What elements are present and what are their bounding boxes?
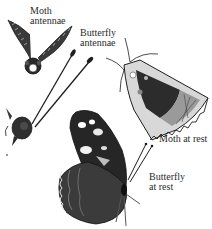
label-butterfly-antennae-line2: antennae (80, 38, 116, 48)
butterfly-at-rest-illustration (59, 110, 153, 226)
moth-head-illustration (8, 19, 72, 74)
label-butterfly-antennae: Butterfly antennae (80, 28, 116, 48)
label-moth-at-rest: Moth at rest (159, 134, 207, 144)
label-butterfly-at-rest: Butterfly at rest (149, 172, 185, 192)
label-moth-antennae: Moth antennae (30, 6, 66, 26)
moth-vs-butterfly-figure: Moth antennae Butterfly antennae Moth at… (0, 0, 212, 229)
moth-at-rest-illustration (106, 38, 208, 140)
label-moth-at-rest-line1: Moth at rest (159, 134, 207, 144)
label-butterfly-at-rest-line2: at rest (149, 182, 185, 192)
label-moth-antennae-line2: antennae (30, 16, 66, 26)
